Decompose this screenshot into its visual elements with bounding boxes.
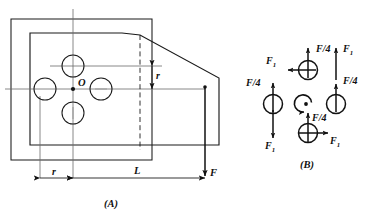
L-label: L: [134, 166, 140, 177]
caption-a: (A): [104, 199, 118, 210]
fbd-left-f4-label: F/4: [246, 78, 260, 88]
center-point-o: [71, 87, 75, 91]
diagram-a-group: [5, 9, 219, 178]
caption-b: (B): [300, 160, 314, 171]
figure-canvas: O r r L F (A) F/4 F1 F1 F/4 F1 F/4 F/4 F…: [0, 0, 370, 220]
r-horizontal-label: r: [52, 167, 56, 177]
fbd-topright-f1-label: F1: [343, 44, 353, 57]
fbd-left-f1-label: F1: [265, 141, 275, 154]
outer-plate-outline: [11, 19, 152, 160]
fbd-top-f1-label: F1: [266, 56, 276, 69]
moment-arc-arrow: [294, 95, 311, 112]
fbd-top-f4-label: F/4: [316, 44, 330, 54]
r-vertical-label: r: [156, 71, 160, 81]
moment-center-dot: [304, 102, 308, 106]
figure-svg: [0, 0, 370, 220]
fbd-right-f4-label: F/4: [343, 76, 357, 86]
force-F-label: F: [210, 168, 217, 179]
center-label-o: O: [78, 78, 86, 89]
fbd-bottom-f4-label: F/4: [312, 113, 326, 123]
fbd-bottom-f1-label: F1: [330, 136, 340, 149]
